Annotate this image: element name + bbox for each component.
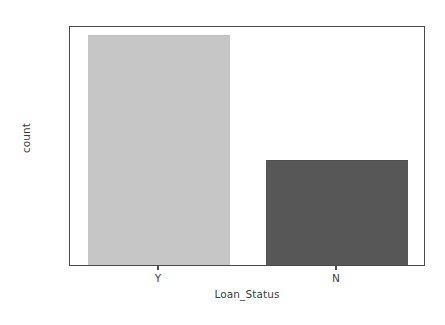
chart-figure: count 050100150200250300350400 YN Loan_S…: [0, 0, 445, 325]
x-axis-tick-label: Y: [128, 272, 188, 284]
x-axis-tick-label: N: [306, 272, 366, 284]
x-axis-title: Loan_Status: [69, 288, 425, 300]
plot-area: [69, 26, 425, 266]
x-axis-tick-mark: [335, 266, 336, 270]
x-axis-tick-mark: [157, 266, 158, 270]
bar-n: [266, 160, 408, 265]
bar-y: [88, 35, 230, 265]
y-axis: 050100150200250300350400: [0, 0, 69, 325]
bars-layer: [70, 27, 424, 265]
